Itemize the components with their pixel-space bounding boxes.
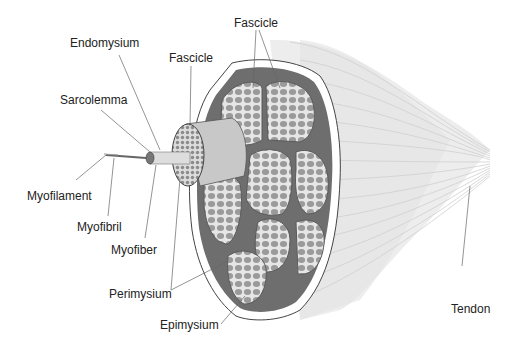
label-fascicle-top: Fascicle — [234, 16, 278, 30]
label-myofiber: Myofiber — [111, 243, 157, 257]
myofiber-cylinder — [146, 152, 190, 164]
label-tendon: Tendon — [451, 302, 490, 316]
label-epimysium: Epimysium — [160, 318, 219, 332]
muscle-diagram: Endomysium Fascicle Fascicle Sarcolemma … — [0, 0, 521, 346]
muscle-illustration — [0, 0, 521, 346]
label-sarcolemma: Sarcolemma — [60, 93, 127, 107]
label-perimysium: Perimysium — [109, 287, 172, 301]
label-endomysium: Endomysium — [70, 36, 139, 50]
label-myofibril: Myofibril — [77, 220, 122, 234]
label-myofilament: Myofilament — [27, 189, 92, 203]
label-fascicle-left: Fascicle — [169, 51, 213, 65]
muscle-cross-section — [189, 60, 340, 320]
myofibril — [104, 154, 146, 158]
